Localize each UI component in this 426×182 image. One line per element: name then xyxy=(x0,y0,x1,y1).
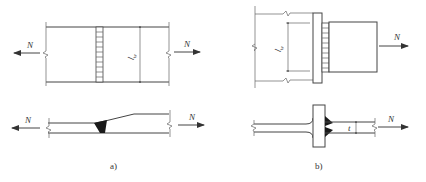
break-line-icon xyxy=(255,11,313,16)
weld-length-label: lw xyxy=(126,52,138,61)
break-line-icon xyxy=(46,118,51,138)
butt-weld-strip xyxy=(96,27,103,82)
force-label: N xyxy=(393,32,401,42)
fillet-weld-top xyxy=(325,116,333,126)
panel-caption-b: b) xyxy=(315,161,323,171)
weld-length-label: lw xyxy=(273,44,285,53)
break-line-icon xyxy=(166,22,171,86)
break-line-icon xyxy=(251,120,256,136)
panel-b-plan-view: lw N xyxy=(252,6,408,88)
break-line-icon xyxy=(372,118,377,137)
break-line-icon xyxy=(255,78,313,83)
panel-a-plan-view: lw N N xyxy=(14,22,200,86)
force-label: N xyxy=(387,114,395,124)
break-line-icon xyxy=(43,22,48,86)
force-label: N xyxy=(26,40,34,50)
flange-section xyxy=(313,105,325,147)
panel-b-section-view: t N b) xyxy=(251,105,408,171)
butt-weld-section xyxy=(94,120,107,133)
break-line-icon xyxy=(252,44,257,51)
panel-caption-a: a) xyxy=(110,161,117,171)
fillet-weld-bottom xyxy=(325,127,333,137)
fillet-weld-strip xyxy=(322,23,329,72)
weld-joint-diagram: lw N N N N a) xyxy=(0,0,426,182)
force-label: N xyxy=(188,112,196,122)
thickness-label: t xyxy=(348,123,351,133)
force-label: N xyxy=(183,39,191,49)
flange-plate xyxy=(313,13,322,83)
attached-plate xyxy=(329,22,377,72)
panel-a-section-view: N N a) xyxy=(12,110,204,171)
force-label: N xyxy=(24,115,32,125)
